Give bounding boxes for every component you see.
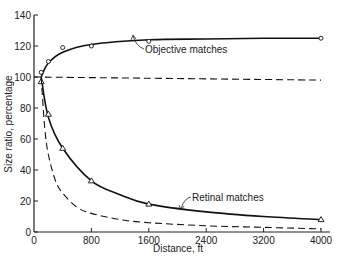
y-tick-label: 40 [20,165,32,176]
x-axis-title: Distance, ft [153,243,203,254]
y-tick-label: 0 [25,227,31,238]
x-tick-label: 4000 [310,235,333,246]
circle-marker [319,36,323,40]
objective-arrow [133,36,144,49]
y-tick-label: 60 [20,134,32,145]
series-line-1 [41,77,321,220]
circle-marker [61,46,65,50]
series-line-2 [34,77,321,80]
x-tick-label: 800 [83,235,100,246]
x-tick-label: 3200 [252,235,275,246]
circle-marker [39,70,43,74]
series-line-3 [41,77,321,229]
circle-marker [89,44,93,48]
x-tick-label: 0 [31,235,37,246]
chart: 08001600240032004000020406080100120140 O… [0,0,338,267]
y-tick-label: 120 [14,41,31,52]
circle-marker [147,39,151,43]
y-tick-label: 80 [20,103,32,114]
y-tick-label: 20 [20,196,32,207]
retinal-matches-label: Retinal matches [192,192,264,203]
annotations: Objective matches Retinal matches [131,35,264,210]
series-layer [34,36,324,229]
objective-matches-label: Objective matches [145,44,227,55]
y-tick-label: 140 [14,10,31,21]
circle-marker [46,60,50,64]
retinal-arrow [181,197,191,209]
y-tick-label: 100 [14,72,31,83]
y-axis-title: Size ratio, percentage [3,75,14,173]
